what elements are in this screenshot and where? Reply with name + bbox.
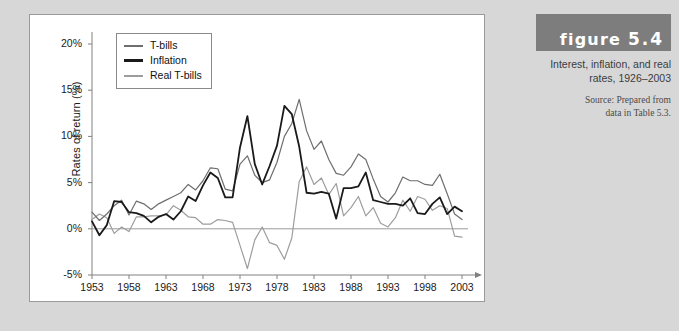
legend-item-inflation: Inflation — [124, 53, 202, 68]
chart-legend: T-bills Inflation Real T-bills — [116, 33, 212, 89]
legend-item-real-t-bills: Real T-bills — [124, 68, 202, 83]
series-line-real-t-bills — [92, 167, 462, 269]
legend-item-t-bills: T-bills — [124, 38, 202, 53]
legend-swatch-t-bills — [124, 45, 143, 47]
legend-label-t-bills: T-bills — [150, 38, 177, 53]
figure-source-line-2: data in Table 5.3. — [537, 107, 671, 120]
legend-label-real-t-bills: Real T-bills — [150, 68, 202, 83]
legend-swatch-real-t-bills — [124, 75, 143, 77]
y-tick-label: 20% — [42, 37, 82, 49]
figure-caption-block: figure 5.4 Interest, inflation, and real… — [519, 14, 671, 119]
figure-number-banner: figure 5.4 — [536, 14, 671, 51]
figure-source: Source: Prepared from data in Table 5.3. — [519, 94, 671, 119]
y-tick-label: 15% — [42, 83, 82, 95]
chart-panel: Rates of return (%) 20%15%10%5%0%-5% 195… — [29, 14, 485, 302]
y-tick-label: -5% — [42, 268, 82, 280]
figure-banner-text: figure 5.4 — [560, 29, 664, 49]
figure-number: 5.4 — [628, 29, 664, 49]
y-tick-label: 5% — [42, 176, 82, 188]
figure-page: Rates of return (%) 20%15%10%5%0%-5% 195… — [0, 0, 679, 331]
y-tick-label: 10% — [42, 129, 82, 141]
line-chart-plot — [30, 15, 484, 301]
figure-title: Interest, inflation, and real rates, 192… — [519, 57, 671, 85]
x-tick-label: 2003 — [440, 281, 484, 293]
y-tick-label: 0% — [42, 222, 82, 234]
figure-word: figure — [560, 30, 621, 49]
legend-label-inflation: Inflation — [150, 53, 187, 68]
figure-source-line-1: Source: Prepared from — [537, 94, 671, 107]
legend-swatch-inflation — [124, 59, 143, 62]
